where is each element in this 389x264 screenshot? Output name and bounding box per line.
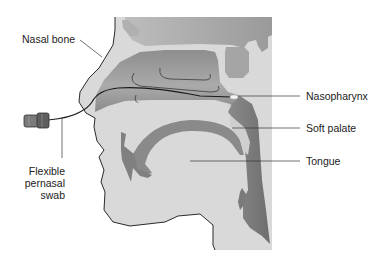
label-flexible-pernasal-swab: Flexible pernasal swab	[18, 165, 65, 201]
label-swab-line3: swab	[18, 189, 65, 201]
leader-nasal-bone	[80, 40, 102, 57]
swab-tip	[230, 95, 238, 99]
label-soft-palate: Soft palate	[306, 122, 356, 134]
label-swab-line1: Flexible	[18, 165, 65, 177]
sphenoid-sinus	[225, 47, 249, 78]
label-nasal-bone: Nasal bone	[22, 33, 75, 45]
swab-handle-icon	[24, 113, 49, 128]
label-tongue: Tongue	[306, 155, 340, 167]
label-nasopharynx: Nasopharynx	[306, 90, 368, 102]
label-swab-line2: pernasal	[18, 177, 65, 189]
